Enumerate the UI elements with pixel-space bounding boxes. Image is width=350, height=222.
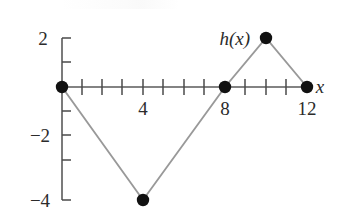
x-label-8: 8 (220, 98, 230, 119)
point-12-0 (301, 81, 313, 93)
function-label-h-of-x: h(x) (219, 28, 250, 50)
y-axis (62, 38, 71, 200)
point-4-neg4 (137, 194, 149, 206)
y-label-2: 2 (38, 28, 48, 49)
y-label-neg4: −4 (30, 190, 51, 211)
h-of-x-curve (62, 38, 307, 200)
point-8-0 (219, 81, 231, 93)
x-label-4: 4 (138, 98, 148, 119)
point-10-2 (260, 32, 272, 44)
top-edge-artifact (60, 0, 180, 9)
x-axis-label: x (315, 76, 325, 97)
point-0-0 (56, 81, 68, 93)
x-label-12: 12 (298, 98, 317, 119)
graph-figure: 2 −2 −4 4 8 12 h(x) x (0, 0, 350, 222)
y-label-neg2: −2 (30, 125, 50, 146)
piecewise-linear-graph: 2 −2 −4 4 8 12 h(x) x (0, 0, 350, 222)
x-axis (62, 79, 308, 95)
data-point-markers (56, 32, 313, 206)
